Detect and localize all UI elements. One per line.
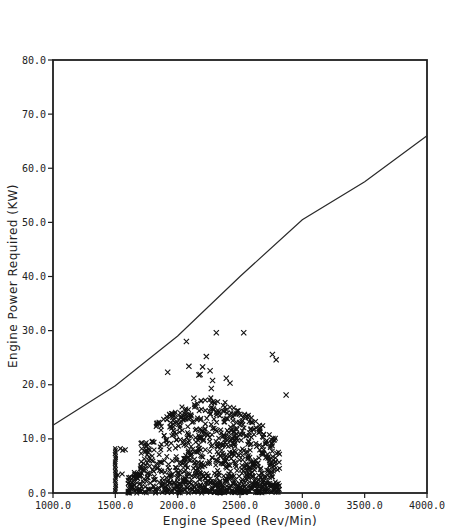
x-marker-icon xyxy=(224,376,229,381)
x-marker-icon xyxy=(274,357,279,362)
x-marker-icon xyxy=(186,364,191,369)
max-power-line xyxy=(53,136,427,426)
x-tick-label: 2500.0 xyxy=(222,500,258,511)
x-marker-icon xyxy=(197,408,202,413)
x-marker-icon xyxy=(240,453,245,458)
x-marker-icon xyxy=(184,339,189,344)
x-marker-icon xyxy=(227,381,232,386)
x-tick-label: 3500.0 xyxy=(347,500,383,511)
y-tick-label: 60.0 xyxy=(22,163,46,174)
x-marker-icon xyxy=(214,429,219,434)
y-tick-label: 50.0 xyxy=(22,217,46,228)
x-marker-icon xyxy=(235,468,240,473)
x-marker-icon xyxy=(178,463,183,468)
x-marker-icon xyxy=(203,422,208,427)
y-tick-label: 70.0 xyxy=(22,109,46,120)
y-tick-label: 10.0 xyxy=(22,433,46,444)
x-marker-icon xyxy=(120,472,125,477)
x-marker-icon xyxy=(209,386,214,391)
x-marker-icon xyxy=(174,454,179,459)
x-marker-icon xyxy=(203,408,208,413)
x-marker-icon xyxy=(178,437,183,442)
x-marker-icon xyxy=(218,428,223,433)
x-marker-icon xyxy=(186,424,191,429)
x-marker-icon xyxy=(203,447,208,452)
x-marker-icon xyxy=(207,439,212,444)
y-axis: 0.010.020.030.040.050.060.070.080.0 xyxy=(22,55,53,499)
x-marker-icon xyxy=(191,396,196,401)
x-axis-title: Engine Speed (Rev/Min) xyxy=(163,514,317,528)
x-marker-icon xyxy=(164,454,169,459)
x-marker-icon xyxy=(246,481,250,485)
x-marker-icon xyxy=(207,368,212,373)
x-marker-icon xyxy=(161,417,166,422)
y-tick-label: 20.0 xyxy=(22,379,46,390)
x-marker-icon xyxy=(284,392,289,397)
x-axis: 1000.01500.02000.02500.03000.03500.04000… xyxy=(35,493,445,511)
y-tick-label: 30.0 xyxy=(22,325,46,336)
x-marker-icon xyxy=(158,448,163,453)
x-marker-icon xyxy=(260,423,265,428)
x-marker-icon xyxy=(270,352,275,357)
x-marker-icon xyxy=(169,441,174,446)
x-marker-icon xyxy=(241,448,246,453)
scatter-points xyxy=(113,330,289,495)
x-marker-icon xyxy=(199,399,204,404)
x-marker-icon xyxy=(214,420,219,425)
x-marker-icon xyxy=(192,457,197,462)
x-marker-icon xyxy=(203,398,208,403)
x-tick-label: 1000.0 xyxy=(35,500,71,511)
x-marker-icon xyxy=(214,330,219,335)
y-tick-label: 80.0 xyxy=(22,55,46,66)
x-marker-icon xyxy=(209,422,214,427)
x-marker-icon xyxy=(217,413,222,418)
x-marker-icon xyxy=(152,448,157,453)
x-marker-icon xyxy=(210,378,215,383)
x-marker-icon xyxy=(178,411,183,416)
x-marker-icon xyxy=(241,330,246,335)
x-marker-icon xyxy=(167,447,172,452)
y-tick-label: 40.0 xyxy=(22,271,46,282)
x-tick-label: 1500.0 xyxy=(97,500,133,511)
x-marker-icon xyxy=(166,462,171,467)
x-marker-icon xyxy=(207,449,212,454)
x-marker-icon xyxy=(200,364,205,369)
x-marker-icon xyxy=(165,370,170,375)
x-tick-label: 3000.0 xyxy=(284,500,320,511)
y-tick-label: 0.0 xyxy=(28,488,46,499)
x-tick-label: 2000.0 xyxy=(160,500,196,511)
chart: 0.010.020.030.040.050.060.070.080.0 1000… xyxy=(0,0,450,532)
x-marker-icon xyxy=(139,446,144,451)
x-tick-label: 4000.0 xyxy=(409,500,445,511)
x-marker-icon xyxy=(157,452,162,457)
y-axis-title: Engine Power Required (KW) xyxy=(6,184,20,368)
x-marker-icon xyxy=(237,458,242,463)
x-marker-icon xyxy=(204,354,209,359)
